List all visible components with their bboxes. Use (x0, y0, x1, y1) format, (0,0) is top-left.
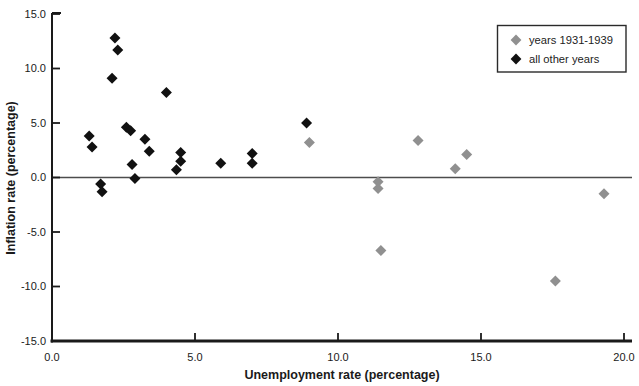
data-point-series-0 (375, 245, 386, 256)
y-tick-label: 0.0 (31, 171, 46, 183)
data-point-series-1 (161, 87, 172, 98)
data-point-series-1 (139, 134, 150, 145)
data-point-series-1 (127, 159, 138, 170)
data-point-series-1 (129, 173, 140, 184)
y-tick-label: 10.0 (25, 62, 46, 74)
x-tick-label: 15.0 (470, 351, 491, 363)
legend-label: all other years (529, 53, 600, 65)
data-point-series-0 (373, 183, 384, 194)
data-point-series-0 (598, 188, 609, 199)
data-point-series-1 (87, 141, 98, 152)
y-tick-label: 15.0 (25, 8, 46, 20)
data-point-series-0 (450, 163, 461, 174)
data-point-series-1 (97, 186, 108, 197)
y-axis-title: Inflation rate (percentage) (4, 101, 18, 255)
x-tick-label: 0.0 (44, 351, 59, 363)
data-point-series-0 (413, 135, 424, 146)
data-point-series-1 (247, 148, 258, 159)
data-point-series-1 (84, 131, 95, 142)
phillips-curve-scatter-figure: Unemployment rate (percentage) Inflation… (0, 0, 639, 386)
data-point-series-0 (304, 137, 315, 148)
y-tick-label: -10.0 (21, 280, 46, 292)
data-point-series-1 (107, 73, 118, 84)
scatter-chart-canvas: Unemployment rate (percentage) Inflation… (0, 0, 639, 386)
data-point-series-1 (215, 158, 226, 169)
data-point-series-1 (144, 146, 155, 157)
data-point-series-1 (109, 32, 120, 43)
x-axis-title: Unemployment rate (percentage) (244, 368, 439, 382)
x-tick-label: 20.0 (613, 351, 634, 363)
data-point-series-1 (301, 118, 312, 129)
x-tick-label: 5.0 (187, 351, 202, 363)
legend-label: years 1931-1939 (529, 34, 613, 46)
data-point-series-1 (112, 44, 123, 55)
legend-box (498, 26, 627, 73)
y-tick-label: -15.0 (21, 335, 46, 347)
data-point-series-0 (461, 149, 472, 160)
y-tick-label: -5.0 (27, 226, 46, 238)
data-point-series-0 (550, 276, 561, 287)
data-point-series-1 (247, 158, 258, 169)
x-tick-label: 10.0 (327, 351, 348, 363)
y-tick-label: 5.0 (31, 117, 46, 129)
